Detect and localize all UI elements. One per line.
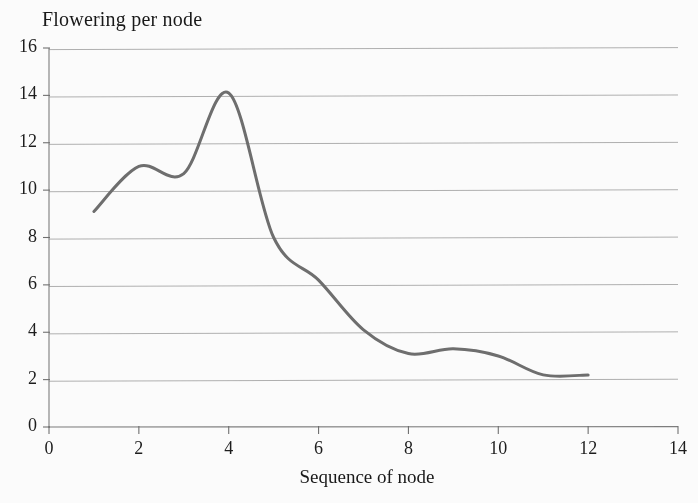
y-tick-label-6: 6: [3, 273, 37, 294]
gridline-y-2: [49, 379, 678, 381]
x-tick-label-4: 4: [209, 438, 249, 459]
gridline-y-12: [49, 142, 678, 144]
y-tick-label-8: 8: [3, 226, 37, 247]
gridline-y-14: [49, 95, 678, 97]
y-tick-label-16: 16: [3, 36, 37, 57]
plot-area: [0, 0, 698, 503]
x-tick-label-8: 8: [388, 438, 428, 459]
gridline-y-16: [49, 48, 678, 50]
gridline-y-8: [49, 237, 678, 239]
gridline-y-4: [49, 332, 678, 334]
y-tick-label-4: 4: [3, 320, 37, 341]
x-tick-label-14: 14: [658, 438, 698, 459]
y-tick-label-14: 14: [3, 83, 37, 104]
x-axis-title-text: Sequence of node: [263, 466, 434, 487]
x-tick-label-0: 0: [29, 438, 69, 459]
chart-figure: Flowering per node 0246810121416 0246810…: [0, 0, 698, 503]
x-tick-label-2: 2: [119, 438, 159, 459]
y-tick-label-2: 2: [3, 368, 37, 389]
y-tick-label-0: 0: [3, 415, 37, 436]
gridline-y-6: [49, 284, 678, 286]
gridline-y-10: [49, 190, 678, 192]
x-tick-label-10: 10: [478, 438, 518, 459]
x-axis-title: Sequence of node: [0, 466, 698, 488]
x-tick-label-6: 6: [299, 438, 339, 459]
y-tick-label-12: 12: [3, 131, 37, 152]
x-tick-label-12: 12: [568, 438, 608, 459]
y-tick-label-10: 10: [3, 178, 37, 199]
